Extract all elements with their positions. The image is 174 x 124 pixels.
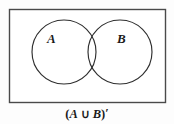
caption-right-operand: B (93, 107, 101, 122)
figure-caption: (A∪B)′ (0, 104, 174, 124)
venn-diagram-figure: A B (A∪B)′ (0, 0, 174, 124)
complement-prime-symbol: ′ (105, 106, 109, 121)
caption-left-operand: A (69, 107, 77, 122)
universal-set-rectangle (10, 10, 166, 103)
set-a-label: A (47, 32, 56, 45)
union-operator-symbol: ∪ (81, 107, 90, 121)
set-b-label: B (117, 32, 126, 45)
